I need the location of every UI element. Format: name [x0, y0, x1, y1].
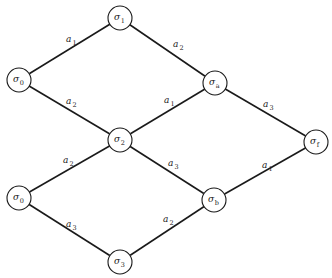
nodes-layer: σ1σ0σ2σaσfσ0σbσ3 — [7, 6, 328, 274]
node-s0b: σ0 — [7, 186, 31, 210]
node-sa: σa — [203, 71, 227, 95]
edge-label: a1 — [164, 95, 175, 108]
edge-s3-sb — [120, 200, 214, 262]
edge-label: a3 — [263, 99, 274, 112]
edge-s0b-s3 — [19, 198, 120, 262]
edge-s0a-s2 — [19, 80, 120, 140]
edge-labels-layer: a1a2a2a1a3a2a3a1a3a2 — [63, 34, 274, 232]
edge-s1-sa — [120, 18, 215, 83]
edge-label: a2 — [66, 96, 77, 109]
node-s3: σ3 — [108, 250, 132, 274]
edges-layer — [19, 18, 316, 262]
edge-label: a2 — [173, 39, 184, 52]
node-s2: σ2 — [108, 128, 132, 152]
node-sb: σb — [202, 188, 226, 212]
edge-s0a-s1 — [19, 18, 120, 80]
node-sf: σf — [304, 130, 328, 154]
edge-sa-sf — [215, 83, 316, 142]
edge-s0b-s2 — [19, 140, 120, 198]
edge-s2-sb — [120, 140, 214, 200]
edge-label: a2 — [163, 214, 174, 227]
edge-sb-sf — [214, 142, 316, 200]
node-s1: σ1 — [108, 6, 132, 30]
node-s0a: σ0 — [7, 68, 31, 92]
edge-label: a3 — [168, 158, 179, 171]
edge-s2-sa — [120, 83, 215, 140]
edge-label: a1 — [66, 34, 77, 47]
edge-label: a2 — [63, 155, 74, 168]
state-lattice-diagram: a1a2a2a1a3a2a3a1a3a2 σ1σ0σ2σaσfσ0σbσ3 — [0, 0, 332, 278]
